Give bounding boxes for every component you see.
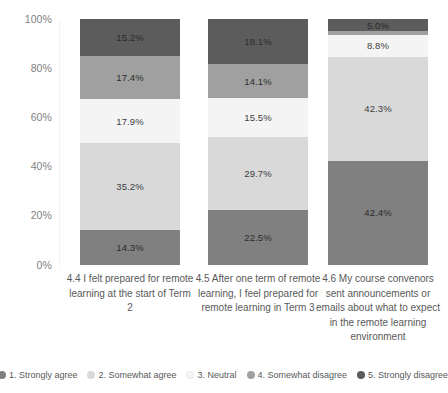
y-axis-tick-label: 80% <box>0 63 52 74</box>
legend-label: 1. Strongly agree <box>9 370 78 380</box>
bar-stack: 42.4%42.3%8.8%5.0% <box>328 19 428 265</box>
bar-segment-value-label: 35.2% <box>116 181 143 192</box>
legend-swatch-icon <box>0 371 6 379</box>
bar-segment[interactable]: 17.4% <box>80 56 180 99</box>
bar-segment-value-label: 14.1% <box>244 76 271 87</box>
bar-segment-value-label: 17.9% <box>116 116 143 127</box>
y-axis-tick-label: 0% <box>0 260 52 271</box>
bar-segment-value-label: 8.8% <box>367 40 389 51</box>
bar-segment[interactable]: 42.3% <box>328 57 428 161</box>
legend-label: 5. Strongly disagree <box>368 370 448 380</box>
chart-legend: 1. Strongly agree2. Somewhat agree3. Neu… <box>0 367 446 383</box>
bar-segment-value-label: 15.2% <box>116 32 143 43</box>
bar-segment-value-label: 29.7% <box>244 168 271 179</box>
bar-segment[interactable]: 15.5% <box>208 98 308 136</box>
legend-swatch-icon <box>357 371 365 379</box>
bar-segment[interactable]: 35.2% <box>80 143 180 230</box>
bar-segment-value-label: 15.5% <box>244 112 271 123</box>
y-axis-tick-label: 100% <box>0 14 52 25</box>
bar-segment-value-label: 5.0% <box>367 20 389 31</box>
bar-segment[interactable]: 8.8% <box>328 35 428 57</box>
y-axis-tick-label: 40% <box>0 161 52 172</box>
bar-segment[interactable] <box>328 31 428 35</box>
bar-segment[interactable]: 14.3% <box>80 230 180 265</box>
bar-segment-value-label: 22.5% <box>244 232 271 243</box>
legend-item[interactable]: 3. Neutral <box>186 370 236 380</box>
plot-area: 14.3%35.2%17.9%17.4%15.2%22.5%29.7%15.5%… <box>60 19 440 265</box>
legend-swatch-icon <box>247 371 255 379</box>
category-label: 4.4 I felt prepared for remote learning … <box>66 272 194 316</box>
legend-label: 4. Somewhat disagree <box>258 370 348 380</box>
y-axis-tick-label: 20% <box>0 210 52 221</box>
legend-label: 3. Neutral <box>197 370 236 380</box>
bar-segment-value-label: 14.3% <box>116 242 143 253</box>
legend-swatch-icon <box>87 371 95 379</box>
bar-segment[interactable]: 42.4% <box>328 161 428 265</box>
bar-segment[interactable]: 22.5% <box>208 210 308 265</box>
bar-segment-value-label: 17.4% <box>116 72 143 83</box>
bar-segment-value-label: 42.3% <box>364 103 391 114</box>
legend-item[interactable]: 2. Somewhat agree <box>87 370 176 380</box>
legend-swatch-icon <box>186 371 194 379</box>
bar-stack: 14.3%35.2%17.9%17.4%15.2% <box>80 19 180 265</box>
bar-segment[interactable]: 14.1% <box>208 64 308 99</box>
bar-segment[interactable]: 17.9% <box>80 99 180 143</box>
bar-segment[interactable]: 29.7% <box>208 137 308 210</box>
category-axis-labels: 4.4 I felt prepared for remote learning … <box>60 272 440 358</box>
bar-segment-value-label: 42.4% <box>364 207 391 218</box>
category-label: 4.5 After one term of remote learning, I… <box>194 272 322 316</box>
bar-segment[interactable]: 15.2% <box>80 19 180 56</box>
bar-segment-value-label: 18.1% <box>244 36 271 47</box>
legend-label: 2. Somewhat agree <box>98 370 176 380</box>
y-axis-tick-label: 60% <box>0 112 52 123</box>
legend-item[interactable]: 5. Strongly disagree <box>357 370 448 380</box>
legend-item[interactable]: 1. Strongly agree <box>0 370 77 380</box>
bar-stack: 22.5%29.7%15.5%14.1%18.1% <box>208 19 308 265</box>
y-axis: 0%20%40%60%80%100% <box>0 0 58 393</box>
bar-segment[interactable]: 18.1% <box>208 19 308 64</box>
bar-segment[interactable]: 5.0% <box>328 19 428 31</box>
legend-item[interactable]: 4. Somewhat disagree <box>247 370 348 380</box>
category-label: 4.6 My course convenors sent announcemen… <box>314 272 442 345</box>
